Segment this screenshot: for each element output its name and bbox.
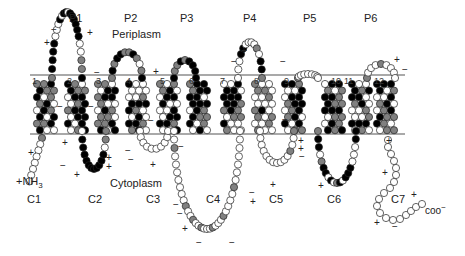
residue bbox=[78, 65, 85, 72]
residue bbox=[163, 94, 170, 101]
residue bbox=[71, 120, 78, 127]
charge-sign: + bbox=[44, 38, 50, 48]
residue bbox=[97, 87, 104, 94]
residue bbox=[373, 120, 380, 127]
residue bbox=[261, 113, 268, 120]
helix-number: 5 bbox=[160, 77, 165, 86]
residue bbox=[373, 94, 380, 101]
residue bbox=[362, 94, 369, 101]
n-terminus-subscript: 3 bbox=[38, 181, 42, 190]
helix-number: 6 bbox=[189, 77, 194, 86]
residue bbox=[170, 127, 177, 134]
residue bbox=[101, 144, 108, 151]
residue bbox=[335, 120, 342, 127]
residue bbox=[163, 120, 170, 127]
charge-sign: + bbox=[374, 218, 380, 228]
residue bbox=[373, 202, 380, 209]
residue bbox=[321, 94, 328, 101]
residue bbox=[338, 127, 345, 134]
residue bbox=[295, 107, 302, 114]
residue bbox=[196, 127, 203, 134]
residue bbox=[74, 87, 81, 94]
residue bbox=[233, 169, 240, 176]
residue bbox=[383, 87, 390, 94]
charge-sign: + bbox=[382, 168, 388, 178]
residue bbox=[200, 107, 207, 114]
residue bbox=[156, 107, 163, 114]
residue bbox=[40, 107, 47, 114]
residue bbox=[43, 127, 50, 134]
residue bbox=[223, 100, 230, 107]
residue bbox=[111, 127, 118, 134]
charge-sign: − bbox=[148, 116, 154, 126]
residue bbox=[234, 107, 241, 114]
residue bbox=[170, 120, 177, 127]
residue bbox=[159, 113, 166, 120]
residue bbox=[81, 113, 88, 120]
residue bbox=[284, 100, 291, 107]
residue bbox=[76, 40, 83, 47]
residue bbox=[254, 87, 261, 94]
residue bbox=[104, 100, 111, 107]
residue bbox=[331, 87, 338, 94]
residue bbox=[97, 113, 104, 120]
charge-sign: − bbox=[229, 238, 235, 248]
charge-sign: − bbox=[128, 155, 134, 165]
residue bbox=[291, 100, 298, 107]
residue bbox=[200, 80, 207, 87]
residue bbox=[67, 87, 74, 94]
residue bbox=[314, 74, 321, 81]
residue bbox=[265, 80, 272, 87]
residue bbox=[257, 58, 264, 65]
residue bbox=[230, 100, 237, 107]
residue bbox=[47, 107, 54, 114]
helix-number: 1 bbox=[32, 77, 37, 86]
residue bbox=[295, 94, 302, 101]
residue bbox=[380, 107, 387, 114]
residue bbox=[101, 120, 108, 127]
residue bbox=[331, 127, 338, 134]
residue bbox=[36, 100, 43, 107]
residue bbox=[288, 120, 295, 127]
residue bbox=[390, 157, 397, 164]
residue bbox=[351, 113, 358, 120]
charge-sign: + bbox=[182, 224, 188, 234]
residue bbox=[321, 107, 328, 114]
residue bbox=[350, 151, 357, 158]
residue bbox=[288, 107, 295, 114]
residue bbox=[258, 74, 265, 81]
residue bbox=[78, 74, 85, 81]
helix-number: 12 bbox=[374, 77, 384, 86]
residue bbox=[111, 100, 118, 107]
cytoplasmic-loop-label: C1 bbox=[27, 194, 41, 205]
cytoplasmic-loop-label: C2 bbox=[88, 194, 102, 205]
residue bbox=[261, 87, 268, 94]
charge-sign: − bbox=[51, 25, 57, 35]
residue bbox=[186, 120, 193, 127]
residue bbox=[387, 120, 394, 127]
residue bbox=[390, 113, 397, 120]
residue bbox=[50, 127, 57, 134]
residue bbox=[49, 57, 56, 64]
residue bbox=[138, 67, 145, 74]
charge-sign: − bbox=[299, 152, 305, 162]
residue bbox=[64, 94, 71, 101]
residue bbox=[172, 153, 179, 160]
residue bbox=[373, 107, 380, 114]
charge-sign: − bbox=[177, 209, 183, 219]
residue bbox=[338, 100, 345, 107]
residue bbox=[358, 113, 365, 120]
charge-sign: + bbox=[150, 160, 156, 170]
residue bbox=[172, 161, 179, 168]
residue bbox=[237, 100, 244, 107]
residue bbox=[43, 113, 50, 120]
helix-number: 7 bbox=[220, 77, 225, 86]
residue bbox=[175, 176, 182, 183]
charge-sign: + bbox=[28, 148, 34, 158]
residue bbox=[128, 100, 135, 107]
residue bbox=[288, 80, 295, 87]
residue bbox=[390, 100, 397, 107]
periplasmic-loop-label: P2 bbox=[124, 13, 137, 24]
residue bbox=[132, 120, 139, 127]
residue bbox=[376, 127, 383, 134]
